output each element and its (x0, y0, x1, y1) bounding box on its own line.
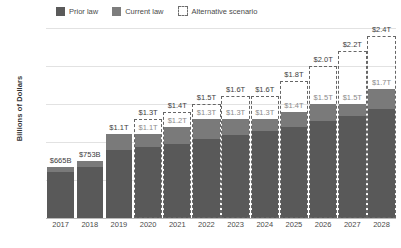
segment-current-law (77, 161, 103, 168)
alternative-scenario-value-label: $1.6T (255, 85, 274, 94)
alternative-scenario-value-label: $2.2T (343, 40, 362, 49)
bar-2028[interactable]: $2.4T$1.7T (368, 28, 394, 218)
legend-item-current-law: Current law (112, 7, 163, 16)
bar-2018[interactable]: $753B (77, 28, 103, 218)
alternative-scenario-value-label: $1.3T (139, 108, 158, 117)
bar-2024[interactable]: $1.6T$1.3T (252, 28, 278, 218)
alternative-scenario-value-label: $1.8T (284, 70, 303, 79)
current-law-value-label: $1.3T (226, 108, 245, 117)
bar-stack (106, 134, 132, 218)
current-law-value-label: $1.7T (372, 78, 391, 87)
alternative-scenario-value-label: $1.4T (168, 101, 187, 110)
x-axis-tick-2025: 2025 (279, 220, 308, 236)
x-axis-tick-2018: 2018 (75, 220, 104, 236)
alternative-scenario-value-label: $2.0T (314, 55, 333, 64)
x-axis-tick-2022: 2022 (192, 220, 221, 236)
x-axis-tick-2020: 2020 (134, 220, 163, 236)
x-axis-tick-2026: 2026 (309, 220, 338, 236)
prior-law-swatch-icon (56, 7, 65, 16)
segment-prior-law (106, 150, 132, 218)
segment-prior-law (77, 167, 103, 218)
bar-2022[interactable]: $1.5T$1.3T (193, 28, 219, 218)
alternative-scenario-box (192, 104, 220, 218)
alternative-scenario-swatch-icon (178, 6, 188, 16)
bar-2023[interactable]: $1.6T$1.3T (222, 28, 248, 218)
gridline-0 (46, 218, 396, 219)
x-axis-tick-2028: 2028 (367, 220, 396, 236)
bar-2027[interactable]: $2.2T$1.5T (339, 28, 365, 218)
chart-container: Prior law Current law Alternative scenar… (0, 0, 401, 248)
segment-current-law (106, 134, 132, 149)
x-axis-tick-2021: 2021 (163, 220, 192, 236)
bar-stack (77, 161, 103, 218)
bar-stack (47, 167, 73, 218)
segment-prior-law (47, 172, 73, 218)
current-law-value-label: $1.5T (314, 93, 333, 102)
bar-2017[interactable]: $665B (47, 28, 73, 218)
legend-label-prior-law: Prior law (69, 7, 98, 16)
alternative-scenario-value-label: $2.4T (372, 25, 391, 34)
legend-item-alternative-scenario: Alternative scenario (178, 6, 258, 16)
current-law-value-label: $1.1T (109, 123, 128, 132)
x-axis-tick-2027: 2027 (338, 220, 367, 236)
x-axis-tick-2023: 2023 (221, 220, 250, 236)
alternative-scenario-box (163, 112, 191, 218)
current-law-value-label: $1.4T (284, 101, 303, 110)
bar-2019[interactable]: $1.1T (106, 28, 132, 218)
x-axis-tick-2019: 2019 (104, 220, 133, 236)
bar-2021[interactable]: $1.4T$1.2T (164, 28, 190, 218)
alternative-scenario-box (367, 36, 395, 218)
legend-item-prior-law: Prior law (56, 7, 98, 16)
x-axis-tick-2017: 2017 (46, 220, 75, 236)
bar-2025[interactable]: $1.8T$1.4T (281, 28, 307, 218)
current-law-value-label: $1.2T (168, 116, 187, 125)
x-axis-tick-2024: 2024 (250, 220, 279, 236)
legend-label-alternative-scenario: Alternative scenario (192, 7, 258, 16)
chart-legend: Prior law Current law Alternative scenar… (56, 6, 257, 16)
current-law-value-label: $753B (79, 150, 101, 159)
current-law-value-label: $665B (50, 156, 72, 165)
bar-2020[interactable]: $1.3T$1.1T (135, 28, 161, 218)
plot-area: $2,500$2,000$1,500$1,000$500$0 $665B$753… (46, 28, 396, 218)
alternative-scenario-box (338, 51, 366, 218)
current-law-value-label: $1.5T (343, 93, 362, 102)
y-axis-title: Billions of Dollars (15, 64, 24, 154)
current-law-swatch-icon (112, 7, 121, 16)
alternative-scenario-value-label: $1.6T (226, 85, 245, 94)
current-law-value-label: $1.3T (255, 108, 274, 117)
current-law-value-label: $1.1T (139, 123, 158, 132)
x-axis: 2017201820192020202120222023202420252026… (46, 220, 396, 236)
alternative-scenario-box (309, 66, 337, 218)
alternative-scenario-box (134, 119, 162, 218)
current-law-value-label: $1.3T (197, 108, 216, 117)
alternative-scenario-value-label: $1.5T (197, 93, 216, 102)
bar-group: $665B$753B$1.1T$1.3T$1.1T$1.4T$1.2T$1.5T… (46, 28, 396, 218)
bar-2026[interactable]: $2.0T$1.5T (310, 28, 336, 218)
legend-label-current-law: Current law (125, 7, 163, 16)
